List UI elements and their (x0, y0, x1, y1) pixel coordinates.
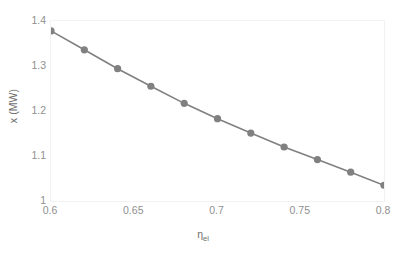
y-axis-tick-label: 1.1 (31, 149, 46, 161)
series-line (51, 31, 384, 185)
data-point-marker (81, 46, 88, 53)
x-axis-title-subscript: el (203, 234, 209, 243)
x-axis-tick-label: 0.65 (123, 204, 143, 216)
x-axis-tick-label: 0.75 (290, 204, 310, 216)
data-point-marker (380, 182, 384, 189)
chart-figure: x (MW) 11.11.21.31.4 0.60.650.70.750.8 η… (0, 0, 406, 258)
y-axis-title-text: x (MW) (7, 89, 19, 123)
x-axis-tick-label: 0.6 (43, 204, 58, 216)
data-point-marker (114, 65, 121, 72)
series-plot (51, 21, 384, 201)
y-axis-tick-label: 1.4 (31, 14, 46, 26)
data-point-marker (214, 115, 221, 122)
x-axis-title: ηel (0, 228, 406, 243)
data-point-marker (181, 100, 188, 107)
data-point-marker (247, 129, 254, 136)
data-point-marker (347, 169, 354, 176)
x-axis-tick-labels: 0.60.650.70.750.8 (0, 204, 406, 220)
data-point-marker (281, 143, 288, 150)
x-axis-tick-label: 0.8 (376, 204, 391, 216)
plot-area (50, 20, 385, 202)
y-axis-tick-label: 1.3 (31, 59, 46, 71)
data-point-marker (147, 83, 154, 90)
data-point-marker (314, 156, 321, 163)
y-axis-tick-label: 1.2 (31, 104, 46, 116)
x-axis-tick-label: 0.7 (209, 204, 224, 216)
